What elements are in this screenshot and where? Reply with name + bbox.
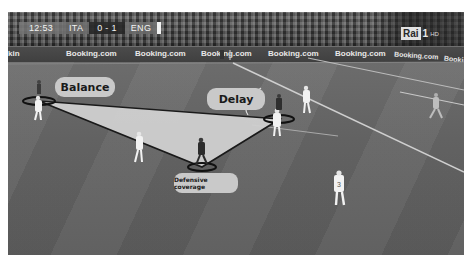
defensive-coverage-label-text: Defensive coverage	[174, 176, 238, 190]
balance-label-text: Balance	[61, 81, 110, 94]
player-balance	[35, 96, 42, 120]
delay-label: Delay	[207, 88, 265, 110]
pitch-overlay: 3	[8, 12, 464, 255]
match-frame: 12:53 ITA 0 - 1 ENG Rai 1 HD kin Booking…	[8, 12, 464, 255]
svg-text:3: 3	[337, 181, 341, 188]
player-number-3: 3	[334, 170, 344, 205]
defensive-coverage-label: Defensive coverage	[174, 173, 238, 193]
delay-label-text: Delay	[219, 93, 254, 106]
player-behind-balance	[37, 80, 41, 94]
player-attacker	[303, 86, 310, 113]
defensive-triangle	[39, 101, 280, 167]
player-far	[220, 50, 224, 59]
player-dark-delay	[276, 94, 282, 110]
balance-label: Balance	[55, 77, 115, 97]
player-delay	[273, 109, 281, 136]
player-winger	[430, 93, 442, 118]
